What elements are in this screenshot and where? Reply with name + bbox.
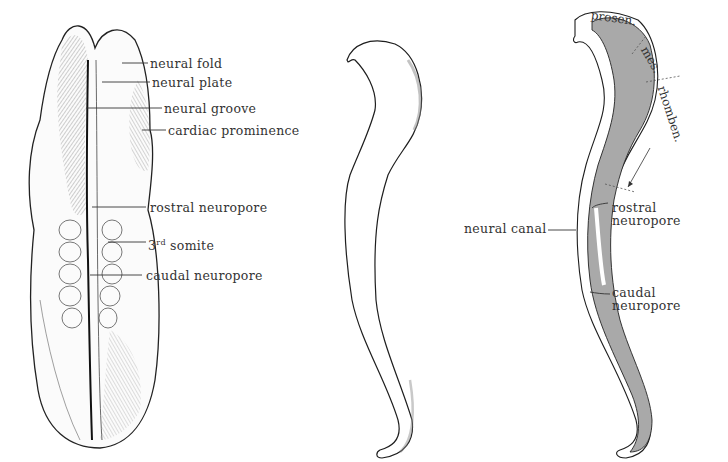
sagittal-section-panel: prosen. mes. rhomben. neural canal rostr… <box>450 0 728 462</box>
dorsal-view-panel: neural fold neural plate neural groove c… <box>0 0 310 462</box>
label-caudal-neuropore: caudal neuropore <box>146 269 263 282</box>
lateral-outline-illustration <box>300 0 450 462</box>
label-rostral-neuropore: neuropore <box>612 214 681 227</box>
somite-text: somite <box>166 238 214 253</box>
label-caudal-neuropore: neuropore <box>612 299 681 312</box>
label-neural-plate: neural plate <box>152 76 232 89</box>
label-neural-fold: neural fold <box>150 57 222 70</box>
label-cardiac-prominence: cardiac prominence <box>168 124 300 137</box>
lateral-outline-panel <box>300 0 450 462</box>
label-neural-groove: neural groove <box>164 102 256 115</box>
somite-ordinal: rd <box>156 238 166 247</box>
label-rostral-neuropore: rostral neuropore <box>150 201 267 214</box>
label-neural-canal: neural canal <box>464 222 546 235</box>
label-3rd-somite: 3rd somite <box>148 236 214 252</box>
